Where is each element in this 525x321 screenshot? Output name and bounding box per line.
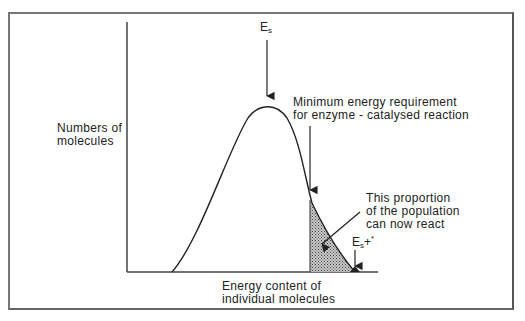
shaded-region-label: This proportion of the population can no… bbox=[366, 192, 460, 231]
threshold-label-line2: for enzyme - catalysed reaction bbox=[293, 109, 469, 122]
x-axis-label: Energy content of individual molecules bbox=[222, 280, 335, 306]
shaded-label-line3: can now react bbox=[366, 218, 460, 231]
y-axis-label-line2: molecules bbox=[57, 135, 122, 148]
tail-label-sup: * bbox=[371, 234, 374, 243]
y-axis-label: Numbers of molecules bbox=[57, 122, 122, 148]
tail-energy-label: Es+* bbox=[352, 234, 374, 250]
tail-label-suffix: + bbox=[364, 235, 371, 249]
threshold-label: Minimum energy requirement for enzyme - … bbox=[293, 96, 469, 122]
shaded-reacting-region bbox=[310, 200, 355, 272]
peak-label-main: E bbox=[260, 20, 268, 34]
x-axis-label-line2: individual molecules bbox=[222, 293, 335, 306]
distribution-plot bbox=[0, 0, 525, 321]
peak-energy-label: Es bbox=[260, 20, 272, 35]
tail-label-main: E bbox=[352, 235, 360, 249]
peak-label-sub: s bbox=[268, 26, 272, 35]
